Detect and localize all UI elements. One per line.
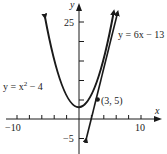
y-ticks xyxy=(79,22,84,139)
parabola-label: y = x2 − 4 xyxy=(3,80,43,92)
y-axis-arrow-icon xyxy=(76,3,82,11)
x-axis-arrow-icon xyxy=(154,116,162,122)
x-axis-label: x xyxy=(154,105,160,116)
tick-label-neg10: −10 xyxy=(5,122,21,133)
tick-label-25: 25 xyxy=(64,17,74,28)
line-label: y = 6x − 13 xyxy=(118,29,164,40)
intersection-point xyxy=(95,97,100,102)
line-6x-13 xyxy=(86,13,118,140)
chart: y x 25 −5 −10 10 (3, 5) y = x2 − 4 y = 6… xyxy=(0,0,167,154)
parabola-label-prefix: y = x xyxy=(3,81,24,92)
y-axis-label: y xyxy=(69,0,75,10)
tick-label-10: 10 xyxy=(135,122,145,133)
parabola-label-suffix: − 4 xyxy=(27,81,43,92)
tick-label-neg5: −5 xyxy=(63,133,74,144)
point-label: (3, 5) xyxy=(101,95,123,107)
